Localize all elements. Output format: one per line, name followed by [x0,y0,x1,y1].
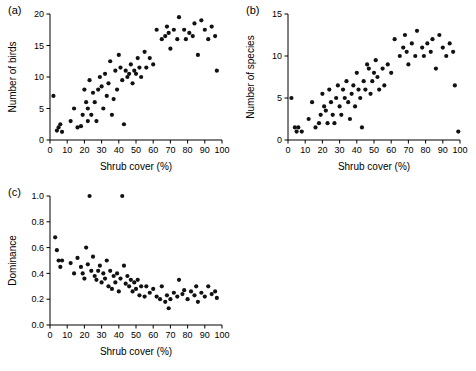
svg-text:100: 100 [214,145,229,155]
svg-text:0.8: 0.8 [31,217,44,227]
svg-text:10: 10 [272,51,282,61]
panel-b-plot: 0102030405060708090100051015Shrub cover … [238,0,476,180]
svg-text:Number of birds: Number of birds [7,41,18,112]
svg-text:0.2: 0.2 [31,294,44,304]
svg-text:50: 50 [131,330,141,340]
panel-b-number-of-species: (b) 0102030405060708090100051015Shrub co… [238,0,476,180]
svg-text:20: 20 [79,330,89,340]
svg-text:30: 30 [97,145,107,155]
svg-text:Number of species: Number of species [245,35,256,118]
svg-text:10: 10 [62,145,72,155]
svg-text:50: 50 [369,145,379,155]
svg-text:0: 0 [285,145,290,155]
svg-text:10: 10 [34,72,44,82]
svg-text:100: 100 [452,145,467,155]
svg-text:0.0: 0.0 [31,320,44,330]
panel-a-number-of-birds: (a) 010203040506070809010005101520Shrub … [0,0,238,180]
panel-c-plot: 01020304050607080901000.00.20.40.60.81.0… [0,182,238,371]
svg-text:0: 0 [47,145,52,155]
svg-text:60: 60 [148,330,158,340]
svg-text:20: 20 [317,145,327,155]
svg-text:70: 70 [165,145,175,155]
svg-text:40: 40 [352,145,362,155]
panel-b-tag: (b) [246,4,259,16]
svg-text:Shrub cover (%): Shrub cover (%) [100,161,172,172]
svg-text:30: 30 [335,145,345,155]
svg-text:80: 80 [183,330,193,340]
svg-text:90: 90 [438,145,448,155]
svg-text:5: 5 [39,104,44,114]
svg-text:70: 70 [403,145,413,155]
svg-text:80: 80 [183,145,193,155]
svg-text:15: 15 [34,41,44,51]
svg-text:60: 60 [386,145,396,155]
svg-text:20: 20 [79,145,89,155]
svg-text:100: 100 [214,330,229,340]
panel-c-tag: (c) [8,186,21,198]
svg-text:Shrub cover (%): Shrub cover (%) [338,161,410,172]
svg-text:80: 80 [421,145,431,155]
panel-c-dominance: (c) 01020304050607080901000.00.20.40.60.… [0,182,238,371]
svg-text:10: 10 [300,145,310,155]
svg-text:Shrub cover (%): Shrub cover (%) [100,346,172,357]
svg-text:1.0: 1.0 [31,191,44,201]
svg-text:0.4: 0.4 [31,269,44,279]
svg-text:Dominance: Dominance [7,235,18,286]
svg-text:50: 50 [131,145,141,155]
panel-a-plot: 010203040506070809010005101520Shrub cove… [0,0,238,180]
svg-text:40: 40 [114,330,124,340]
svg-text:15: 15 [272,9,282,19]
svg-text:0: 0 [277,135,282,145]
svg-text:5: 5 [277,93,282,103]
panel-a-tag: (a) [8,4,21,16]
svg-text:0.6: 0.6 [31,243,44,253]
svg-text:90: 90 [200,145,210,155]
svg-text:20: 20 [34,9,44,19]
svg-text:0: 0 [39,135,44,145]
svg-text:30: 30 [97,330,107,340]
svg-text:60: 60 [148,145,158,155]
svg-text:90: 90 [200,330,210,340]
svg-text:10: 10 [62,330,72,340]
svg-text:70: 70 [165,330,175,340]
svg-text:40: 40 [114,145,124,155]
svg-text:0: 0 [47,330,52,340]
